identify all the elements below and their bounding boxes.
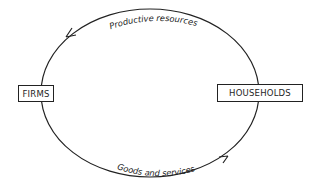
node-households-label: HOUSEHOLDS — [229, 88, 291, 98]
label-productive-resources: Productive resources — [108, 13, 199, 31]
node-households: HOUSEHOLDS — [217, 84, 303, 102]
node-firms: FIRMS — [18, 85, 54, 102]
node-firms-label: FIRMS — [22, 89, 49, 99]
arrow-head-goods-and-services — [219, 156, 228, 163]
